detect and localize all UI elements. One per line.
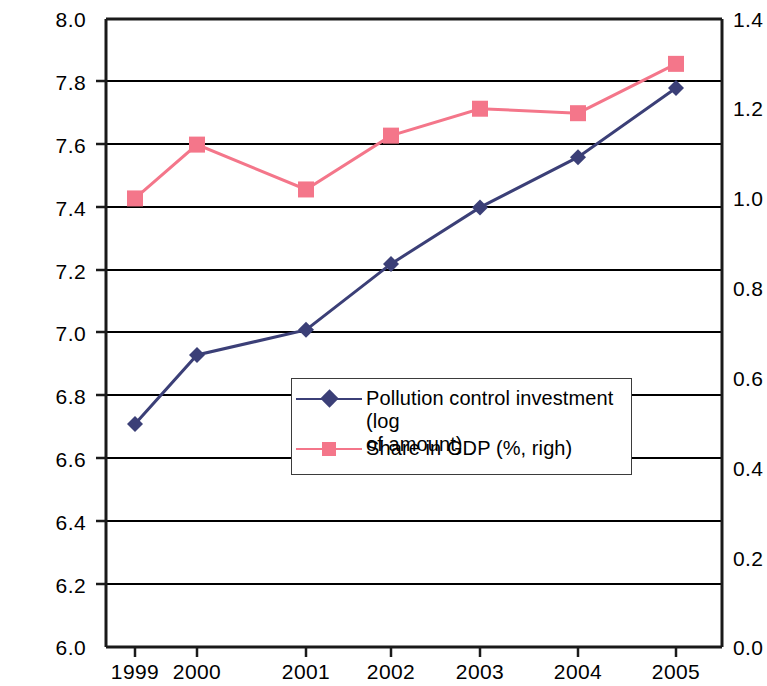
chart-container: 8.0 7.8 7.6 7.4 7.2 7.0 6.8 6.6 6.4 6.2 … [0,0,767,686]
plot-area [0,0,767,686]
data-point-square [298,181,314,197]
x-tick-label-2004: 2004 [528,661,628,682]
data-point-diamond [472,199,488,215]
x-tick-label-2005: 2005 [626,661,726,682]
diamond-marker-icon [320,389,338,407]
data-point-square [383,128,399,144]
series-layer [127,56,684,432]
legend-swatch-pink [292,439,366,459]
x-tick-label-2002: 2002 [341,661,441,682]
series-line-blue [135,88,676,424]
square-marker-icon [322,442,336,456]
data-point-square [127,190,143,206]
legend-swatch-blue [292,389,366,409]
data-point-square [189,137,205,153]
data-point-square [668,56,684,72]
data-point-square [570,105,586,121]
legend: Pollution control investment (log of amo… [291,378,632,475]
x-tick-label-2003: 2003 [430,661,530,682]
legend-label-pink: Share in GDP (%, righ) [366,437,572,460]
legend-item-share-in-gdp: Share in GDP (%, righ) [292,437,572,460]
gridlines [106,81,722,584]
x-tick-label-2000: 2000 [147,661,247,682]
data-point-square [472,101,488,117]
series-line-pink [135,64,676,199]
